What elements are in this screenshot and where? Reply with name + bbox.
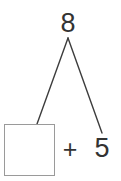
missing-addend-input-box[interactable] bbox=[4, 124, 55, 176]
total-value: 8 bbox=[53, 10, 83, 37]
right-branch-line bbox=[68, 38, 102, 133]
number-bond-worksheet: 8 + 5 bbox=[0, 0, 121, 181]
plus-operator: + bbox=[58, 137, 82, 162]
known-addend-value: 5 bbox=[88, 135, 116, 162]
left-branch-line bbox=[37, 38, 68, 124]
